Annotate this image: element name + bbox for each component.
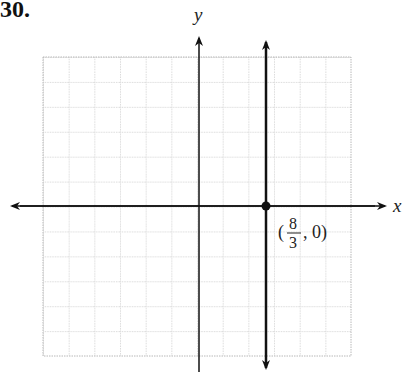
x-axis-label: x <box>392 195 402 216</box>
svg-text:8: 8 <box>289 215 297 232</box>
svg-text:3: 3 <box>289 234 297 251</box>
intercept-point <box>262 202 271 211</box>
y-axis-label: y <box>192 4 203 25</box>
svg-text:, 0): , 0) <box>303 222 327 243</box>
coordinate-plane: x y ( 8 3 , 0) <box>0 0 409 372</box>
svg-text:(: ( <box>278 222 284 243</box>
